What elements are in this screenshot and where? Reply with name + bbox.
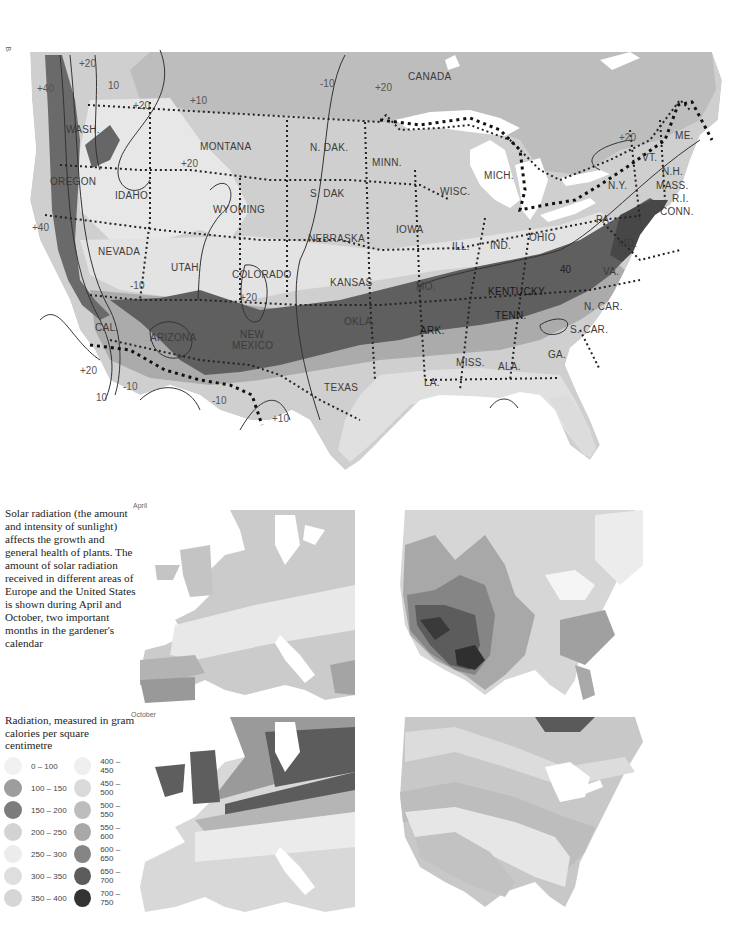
isotherm-label: -10 xyxy=(123,381,137,392)
legend-item: 450 – 500 xyxy=(74,779,134,797)
legend-item: 200 – 250 xyxy=(4,823,67,841)
state-label: WISC. xyxy=(440,186,470,197)
swatch-icon xyxy=(74,801,91,819)
state-label: WYOMING xyxy=(213,204,265,215)
swatch-icon xyxy=(4,845,22,863)
legend-item: 300 – 350 xyxy=(4,867,67,885)
usa-october-map xyxy=(395,712,645,922)
state-label: COLORADO xyxy=(232,269,292,280)
europe-april-map xyxy=(135,505,360,705)
state-label: CAL. xyxy=(95,322,118,333)
legend-item: 100 – 150 xyxy=(4,779,67,797)
state-label: ALA. xyxy=(498,361,521,372)
state-label: ARK. xyxy=(420,325,445,336)
legend-item: 500 – 550 xyxy=(74,801,134,819)
legend-title: Radiation, measured in gram calories per… xyxy=(5,714,137,752)
state-label: MEXICO xyxy=(232,340,273,351)
state-label: OHIO xyxy=(529,232,556,243)
isotherm-label: +20 xyxy=(240,292,257,303)
isotherm-label: +10 xyxy=(272,413,289,424)
state-label: MONTANA xyxy=(200,141,251,152)
legend-item: 700 – 750 xyxy=(74,889,134,907)
state-label: LA. xyxy=(424,377,440,388)
isotherm-label: +20 xyxy=(80,365,97,376)
swatch-icon xyxy=(4,889,22,907)
swatch-icon xyxy=(4,823,22,841)
state-label: NEBRASKA xyxy=(308,233,365,244)
legend-item: 600 – 650 xyxy=(74,845,134,863)
swatch-icon xyxy=(74,779,91,797)
state-label: KANSAS xyxy=(330,277,372,288)
state-label: N. DAK. xyxy=(310,142,348,153)
state-label: S. DAK xyxy=(310,188,345,199)
hardiness-zone-map: CANADA WASH. OREGON IDAHO MONTANA N. DAK… xyxy=(0,0,752,480)
europe-october-map xyxy=(135,712,360,922)
state-label: N. CAR. xyxy=(584,301,623,312)
state-label: MISS. xyxy=(456,357,485,368)
state-label: TEXAS xyxy=(324,382,358,393)
swatch-icon xyxy=(74,889,91,907)
state-label: IND. xyxy=(490,240,511,251)
swatch-icon xyxy=(74,867,91,885)
state-label: NEVADA xyxy=(98,246,140,257)
swatch-icon xyxy=(74,823,91,841)
state-label: KENTUCKY xyxy=(488,286,545,297)
us-map-graphic xyxy=(0,0,752,480)
state-label: OREGON xyxy=(50,176,96,187)
state-label: MINN. xyxy=(372,157,402,168)
state-label: MASS. xyxy=(656,180,689,191)
isotherm-label: -10 xyxy=(212,395,226,406)
state-label: NEW xyxy=(240,329,264,340)
swatch-icon xyxy=(4,779,22,797)
state-label: MICH. xyxy=(484,170,514,181)
swatch-icon xyxy=(4,867,22,885)
country-label-canada: CANADA xyxy=(408,71,451,82)
isotherm-label: +40 xyxy=(32,222,49,233)
state-label: GA. xyxy=(548,349,566,360)
isotherm-label: +10 xyxy=(190,95,207,106)
state-label: ILL. xyxy=(452,241,470,252)
isotherm-label: +40 xyxy=(37,83,54,94)
isotherm-label: +20 xyxy=(619,132,636,143)
legend-item: 400 – 450 xyxy=(74,757,134,775)
legend-item: 150 – 200 xyxy=(4,801,67,819)
isotherm-label: +20 xyxy=(133,100,150,111)
description-text: Solar radiation (the amount and intensit… xyxy=(5,507,137,650)
state-label: VA. xyxy=(603,266,619,277)
isotherm-label: +20 xyxy=(79,58,96,69)
isotherm-label: 10 xyxy=(108,80,119,91)
isotherm-label: 40 xyxy=(560,264,571,275)
state-label: TENN. xyxy=(495,310,527,321)
state-label: ME. xyxy=(675,130,694,141)
isotherm-label: -10 xyxy=(320,78,334,89)
state-label: N.Y. xyxy=(608,180,627,191)
state-label: UTAH xyxy=(171,262,199,273)
state-label: ARIZONA xyxy=(150,332,197,343)
state-label: MD. xyxy=(618,238,637,249)
legend-item: 350 – 400 xyxy=(4,889,67,907)
swatch-icon xyxy=(74,845,91,863)
state-label: S. CAR. xyxy=(570,324,608,335)
legend-item: 250 – 300 xyxy=(4,845,67,863)
usa-april-map xyxy=(395,505,645,705)
isotherm-label: 10 xyxy=(96,392,107,403)
state-label: OKLA. xyxy=(344,316,375,327)
swatch-icon xyxy=(4,757,22,775)
state-label: MO. xyxy=(416,281,436,292)
isotherm-label: -10 xyxy=(130,280,144,291)
legend-item: 550 – 600 xyxy=(74,823,134,841)
state-label: CONN. xyxy=(660,206,694,217)
state-label: N.H. xyxy=(662,166,683,177)
legend-item: 0 – 100 xyxy=(4,757,58,775)
state-label: R.I. xyxy=(672,193,689,204)
isotherm-label: +20 xyxy=(181,158,198,169)
state-label: VT. xyxy=(642,152,657,163)
legend-item: 650 – 700 xyxy=(74,867,134,885)
state-label: IDAHO xyxy=(115,190,148,201)
state-label: IOWA xyxy=(396,224,424,235)
swatch-icon xyxy=(74,757,91,775)
swatch-icon xyxy=(4,801,22,819)
isotherm-label: +20 xyxy=(375,82,392,93)
state-label: WASH. xyxy=(66,124,100,135)
state-label: PA. xyxy=(596,214,612,225)
